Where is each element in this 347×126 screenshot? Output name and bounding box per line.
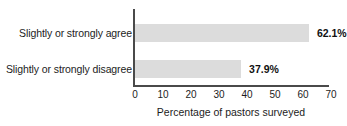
x-tick-label-30: 30 [213,89,224,101]
x-axis-line [133,85,329,87]
x-tick-label-40: 40 [241,89,252,101]
x-tick-label-0: 0 [132,89,138,101]
category-label-agree: Slightly or strongly agree [19,27,132,39]
bar-value-agree: 62.1% [317,27,347,39]
x-tick-label-60: 60 [297,89,308,101]
bar-disagree [135,60,241,78]
category-label-disagree: Slightly or strongly disagree [6,63,132,75]
plot-area: 62.1% 37.9% 010203040506070 [133,9,341,87]
bar-value-disagree: 37.9% [249,63,279,75]
x-tick-label-50: 50 [269,89,280,101]
bar-agree [135,24,309,42]
x-tick-label-10: 10 [157,89,168,101]
x-tick-label-70: 70 [325,89,336,101]
x-tick-label-20: 20 [185,89,196,101]
x-axis-title: Percentage of pastors surveyed [133,106,329,119]
